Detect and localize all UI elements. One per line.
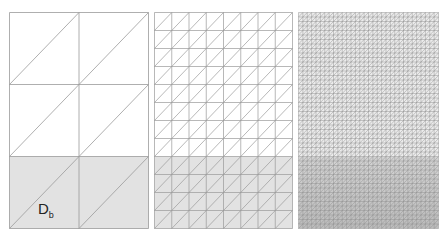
mesh-fine <box>298 12 439 229</box>
mesh-coarse <box>9 12 149 229</box>
subdomain-label-sub: b <box>49 210 54 220</box>
subdomain-label-main: D <box>38 200 49 217</box>
subdomain-label: Db <box>38 201 54 220</box>
mesh-medium <box>154 12 293 229</box>
mesh-panel-fine <box>298 12 439 229</box>
mesh-panel-coarse <box>9 12 149 229</box>
mesh-panel-medium <box>154 12 293 229</box>
